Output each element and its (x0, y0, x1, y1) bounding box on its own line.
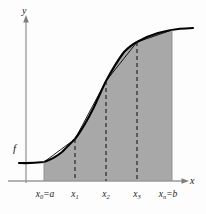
tick-sub-x3: 3 (137, 193, 140, 200)
tick-label-xn: xn=b (159, 190, 178, 200)
function-label: f (13, 143, 16, 154)
tick-sub-x1: 1 (75, 193, 78, 200)
x-axis-arrow-icon (182, 178, 190, 184)
tick-sub-x0: 0 (40, 193, 43, 200)
tick-value-x0: a (50, 189, 55, 199)
x-axis-label: x (190, 176, 194, 186)
tick-label-x3: x3 (133, 190, 140, 200)
tick-sub-x2: 2 (106, 193, 109, 200)
tick-label-x0: x0=a (36, 190, 55, 200)
y-axis-label: y (22, 6, 26, 16)
shaded-area-under-curve (44, 30, 172, 181)
tick-sub-xn: n (163, 193, 166, 200)
tick-label-x2: x2 (102, 190, 109, 200)
y-axis-arrow-icon (23, 15, 29, 23)
figure-canvas (0, 0, 206, 214)
trapezoidal-rule-figure: y x f x0=a x1 x2 x3 xn=b (0, 0, 206, 214)
tick-value-xn: b (173, 189, 178, 199)
tick-label-x1: x1 (71, 190, 78, 200)
